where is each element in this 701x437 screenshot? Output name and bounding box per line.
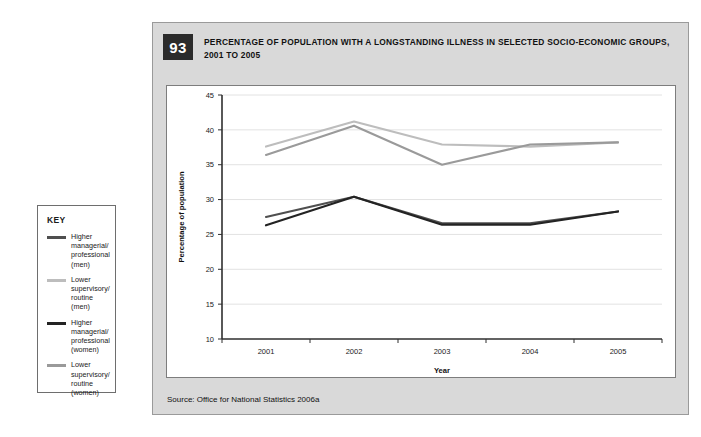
chart-panel: 93 PERCENTAGE OF POPULATION WITH A LONGS… — [152, 22, 689, 415]
x-axis-title: Year — [434, 366, 450, 375]
legend-item-higher-managerial-men: Higher managerial/ professional (men) — [47, 232, 108, 269]
y-tick-label: 25 — [206, 230, 214, 239]
legend-item-lower-supervisory-men: Lower supervisory/ routine (men) — [47, 275, 108, 312]
legend-swatch-higher-managerial-women — [47, 322, 66, 325]
plot-card: 1015202530354045 20012002200320042005 Pe… — [166, 85, 676, 378]
source-note: Source: Office for National Statistics 2… — [167, 395, 319, 404]
legend-label-lower-supervisory-men: Lower supervisory/ routine (men) — [71, 275, 110, 312]
legend-swatch-lower-supervisory-men — [47, 279, 66, 282]
y-axis-title: Percentage of population — [177, 171, 186, 262]
legend-swatch-lower-supervisory-women — [47, 364, 66, 367]
page-title: PERCENTAGE OF POPULATION WITH A LONGSTAN… — [204, 34, 672, 61]
panel-header: 93 PERCENTAGE OF POPULATION WITH A LONGS… — [153, 23, 688, 75]
legend-label-higher-managerial-men: Higher managerial/ professional (men) — [71, 232, 110, 269]
key-title: KEY — [47, 215, 108, 225]
y-tick-label: 15 — [206, 300, 214, 309]
series-line — [266, 197, 618, 226]
chart-key-legend: KEY Higher managerial/ professional (men… — [37, 205, 116, 393]
x-tick-label: 2003 — [434, 347, 451, 356]
y-tick-label: 40 — [206, 126, 214, 135]
data-series — [266, 121, 618, 225]
y-tick-label: 20 — [206, 265, 214, 274]
y-tick-label: 35 — [206, 160, 214, 169]
x-tick-label: 2004 — [522, 347, 539, 356]
y-axis-ticks: 1015202530354045 — [206, 91, 222, 344]
y-tick-label: 10 — [206, 335, 214, 344]
y-tick-label: 30 — [206, 195, 214, 204]
x-tick-label: 2001 — [258, 347, 275, 356]
x-tick-label: 2002 — [346, 347, 363, 356]
line-chart: 1015202530354045 20012002200320042005 Pe… — [167, 86, 677, 379]
x-axis-ticks: 20012002200320042005 — [222, 339, 662, 356]
legend-label-higher-managerial-women: Higher managerial/ professional (women) — [71, 318, 110, 355]
chart-number-badge: 93 — [163, 34, 193, 60]
legend-label-lower-supervisory-women: Lower supervisory/ routine (women) — [71, 360, 110, 397]
x-tick-label: 2005 — [610, 347, 627, 356]
legend-item-lower-supervisory-women: Lower supervisory/ routine (women) — [47, 360, 108, 397]
y-tick-label: 45 — [206, 91, 214, 100]
legend-item-higher-managerial-women: Higher managerial/ professional (women) — [47, 318, 108, 355]
gridlines — [222, 95, 662, 304]
legend-swatch-higher-managerial-men — [47, 236, 66, 239]
